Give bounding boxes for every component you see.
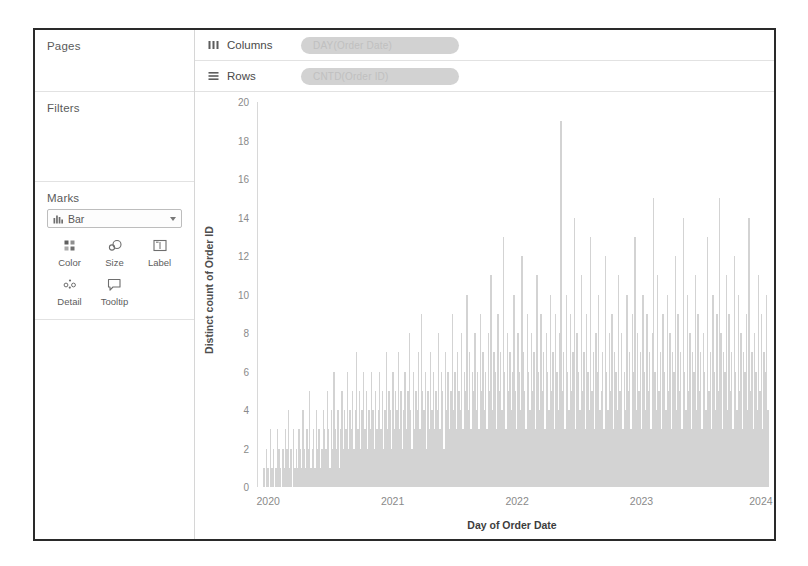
mark-type-value: Bar — [68, 213, 84, 225]
y-axis-tick: 18 — [238, 135, 249, 146]
pages-card-title: Pages — [47, 40, 182, 52]
x-axis-tick: 2021 — [381, 495, 404, 507]
marks-card-filler — [35, 320, 194, 539]
chart-view[interactable]: Distinct count of Order ID 0246810121416… — [195, 92, 774, 539]
y-axis-title-text: Distinct count of Order ID — [203, 226, 215, 354]
bar[interactable] — [263, 468, 264, 487]
marks-size-button[interactable]: Size — [92, 237, 137, 268]
marks-tooltip-label: Tooltip — [101, 296, 128, 307]
marks-card: Marks Bar — [35, 182, 194, 320]
tooltip-bubble-icon — [104, 276, 126, 293]
x-axis-tick: 2022 — [505, 495, 528, 507]
y-axis-tick: 2 — [243, 443, 249, 454]
marks-card-title: Marks — [47, 192, 182, 204]
bar[interactable] — [767, 410, 768, 487]
y-axis-tick: 8 — [243, 328, 249, 339]
bar-chart-icon — [53, 210, 64, 228]
rows-icon — [206, 71, 220, 81]
tableau-worksheet: Pages Filters Marks Bar — [33, 28, 776, 541]
y-axis-ticks: 02468101214161820 — [217, 92, 255, 487]
mark-type-dropdown[interactable]: Bar — [47, 209, 182, 228]
y-axis-tick: 0 — [243, 482, 249, 493]
columns-icon — [206, 40, 220, 50]
bar[interactable] — [267, 468, 268, 487]
pages-card[interactable]: Pages — [35, 30, 194, 92]
marks-detail-button[interactable]: Detail — [47, 276, 92, 307]
left-shelf-pane: Pages Filters Marks Bar — [35, 30, 195, 539]
x-axis-tick: 2023 — [630, 495, 653, 507]
rows-pill[interactable]: CNTD(Order ID) — [301, 68, 459, 85]
columns-shelf-label: Columns — [227, 39, 301, 51]
marks-label-button[interactable]: Label — [137, 237, 182, 268]
filters-card[interactable]: Filters — [35, 92, 194, 182]
x-axis-title: Day of Order Date — [258, 519, 766, 531]
marks-button-grid: Color Size — [47, 237, 182, 307]
rows-shelf-label: Rows — [227, 70, 301, 82]
y-axis-tick: 16 — [238, 174, 249, 185]
rows-shelf[interactable]: Rows CNTD(Order ID) — [195, 61, 774, 92]
y-axis-tick: 14 — [238, 212, 249, 223]
size-circles-icon — [104, 237, 126, 254]
marks-detail-label: Detail — [57, 296, 81, 307]
chevron-down-icon — [170, 217, 176, 221]
marks-color-button[interactable]: Color — [47, 237, 92, 268]
bar[interactable] — [280, 468, 281, 487]
y-axis-tick: 6 — [243, 366, 249, 377]
y-axis-title: Distinct count of Order ID — [201, 92, 217, 487]
filters-card-title: Filters — [47, 102, 182, 114]
bar-plot-area[interactable] — [258, 102, 766, 487]
color-palette-icon — [59, 237, 81, 254]
y-axis-tick: 4 — [243, 405, 249, 416]
x-axis-ticks: 20202021202220232024 — [258, 495, 766, 509]
y-axis-tick: 10 — [238, 289, 249, 300]
marks-color-label: Color — [58, 257, 81, 268]
marks-size-label: Size — [105, 257, 123, 268]
view-pane: Columns DAY(Order Date) Rows CNTD(Order … — [195, 30, 774, 539]
bar[interactable] — [290, 449, 291, 488]
y-axis-tick: 20 — [238, 97, 249, 108]
detail-dots-icon — [59, 276, 81, 293]
columns-shelf[interactable]: Columns DAY(Order Date) — [195, 30, 774, 61]
y-axis-tick: 12 — [238, 251, 249, 262]
marks-tooltip-button[interactable]: Tooltip — [92, 276, 137, 307]
x-axis-tick: 2024 — [749, 495, 772, 507]
x-axis-tick: 2020 — [256, 495, 279, 507]
label-text-icon — [149, 237, 171, 254]
bar[interactable] — [273, 449, 274, 488]
marks-label-label: Label — [148, 257, 171, 268]
columns-pill[interactable]: DAY(Order Date) — [301, 37, 459, 54]
